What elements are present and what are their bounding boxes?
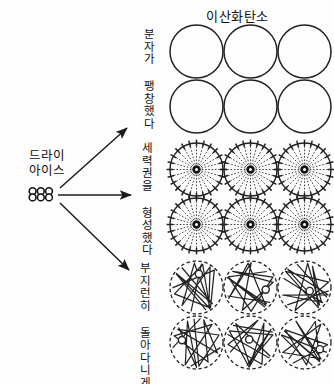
diagram-canvas: 이산화탄소 드라이 아이스 (0, 0, 334, 384)
molecule-group-plain (168, 22, 334, 140)
molecule-group-spoked (168, 140, 334, 258)
branch-label-moving: 부지런히 돌아다니게 됐다 (136, 262, 150, 380)
branch-label-territory: 세력권을 형성했다 (138, 142, 152, 256)
arrow-down-right (60, 203, 129, 270)
branch-label-expanded: 분자가 팽창했다 (140, 28, 154, 132)
molecule-group-trajectories (168, 258, 334, 376)
arrow-up-right (60, 128, 127, 188)
